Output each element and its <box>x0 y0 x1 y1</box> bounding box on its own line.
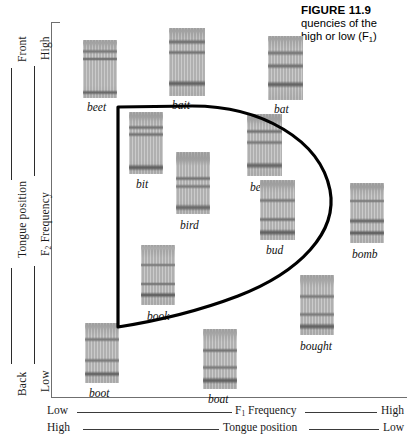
spectrogram-edge <box>350 183 384 243</box>
spectrogram-label-bit: bit <box>136 178 148 190</box>
axis-left-inner-rule-upper <box>34 66 35 176</box>
caption-line-2-pre: high or low (F <box>301 30 369 42</box>
caption-line-1: quencies of the <box>301 17 409 31</box>
caption-line-2: high or low (F1) <box>301 30 409 47</box>
spectrogram-bait <box>169 28 205 96</box>
spectrogram-beet <box>83 40 117 98</box>
spectrogram-bird <box>176 152 210 214</box>
spectrogram-label-bird: bird <box>180 219 199 231</box>
axis-left-outer-rule-lower <box>11 268 12 364</box>
axis-left-outer-top-end: Front <box>16 36 28 62</box>
figure-canvas: FIGURE 11.9 quencies of the high or low … <box>0 0 409 440</box>
spectrogram-boat <box>203 329 237 389</box>
axis-bottom-tongue-right-end: Low <box>383 421 404 433</box>
axis-left-inner-label: F2 Frequency <box>39 192 53 256</box>
spectrogram-edge <box>85 323 119 383</box>
spectrogram-edge <box>260 180 295 240</box>
spectrogram-bat <box>268 36 303 100</box>
spectrogram-edge <box>169 28 205 96</box>
axis-bottom-f1-right-end: High <box>381 404 404 416</box>
spectrogram-edge <box>203 329 237 389</box>
spectrogram-edge <box>83 40 117 98</box>
figure-caption: FIGURE 11.9 quencies of the high or low … <box>301 3 409 47</box>
axis-left-inner-top-end: High <box>39 36 51 60</box>
spectrogram-edge <box>268 36 303 100</box>
spectrogram-edge <box>300 275 334 335</box>
axis-left-outer-bottom-end: Back <box>16 372 28 396</box>
plot-frame-top-tick <box>51 22 60 23</box>
spectrogram-bud <box>260 180 295 240</box>
spectrogram-edge <box>247 114 282 176</box>
axis-bottom-f1: Low F1 Frequency High <box>47 404 407 420</box>
axis-left-outer-rule-upper <box>11 68 12 180</box>
axis-bottom-tongue: High Tongue position Low <box>47 421 407 437</box>
spectrogram-book <box>141 245 175 305</box>
axis-bottom-tongue-label: Tongue position <box>223 421 297 433</box>
figure-number: FIGURE 11.9 <box>301 3 409 17</box>
spectrogram-label-boot: boot <box>89 387 109 399</box>
axis-bottom-tongue-left-end: High <box>47 421 70 433</box>
spectrogram-boot <box>85 323 119 383</box>
spectrogram-edge <box>129 112 163 174</box>
axis-bottom-f1-rule-right <box>305 412 377 413</box>
spectrogram-edge <box>176 152 210 214</box>
axis-bottom-tongue-rule-left <box>83 429 219 430</box>
axis-left-outer-label: Tongue position <box>16 181 28 258</box>
axis-bottom-tongue-rule-right <box>309 429 379 430</box>
axis-bottom-f1-label-post: Frequency <box>245 404 296 416</box>
spectrogram-bit <box>129 112 163 174</box>
axis-left-inner-label-post: Frequency <box>39 192 51 245</box>
spectrogram-label-book: book <box>147 310 169 322</box>
axis-bottom-f1-rule-left <box>77 412 232 413</box>
spectrogram-label-bait: bait <box>172 99 190 111</box>
axis-left-inner-rule-lower <box>34 266 35 364</box>
axis-left-inner-label-pre: F <box>39 249 51 256</box>
axis-bottom-f1-label: F1 Frequency <box>235 404 297 418</box>
axis-bottom-f1-left-end: Low <box>47 404 68 416</box>
spectrogram-edge <box>141 245 175 305</box>
spectrogram-label-beet: beet <box>87 101 106 113</box>
spectrogram-bed <box>247 114 282 176</box>
spectrogram-label-bud: bud <box>266 244 283 256</box>
axis-left-inner-bottom-end: Low <box>39 370 51 392</box>
spectrogram-label-bomb: bomb <box>352 248 378 260</box>
spectrogram-bomb <box>350 183 384 243</box>
spectrogram-label-bought: bought <box>300 340 332 352</box>
caption-line-2-post: ) <box>373 30 377 42</box>
axis-left-inner-subscript: 2 <box>44 245 53 249</box>
spectrogram-bought <box>300 275 334 335</box>
